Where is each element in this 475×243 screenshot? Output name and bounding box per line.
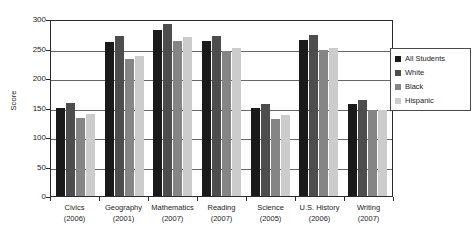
category-tick-mark: [393, 197, 394, 201]
y-axis-tick-label: 250: [20, 46, 46, 54]
x-axis-label-year: (2005): [246, 214, 295, 225]
bar-groups: [51, 21, 392, 196]
bar: [105, 42, 114, 196]
x-axis-label-year: (2007): [344, 214, 393, 225]
legend: All StudentsWhiteBlackHispanic: [390, 48, 471, 111]
bar: [358, 100, 367, 196]
category-tick-mark: [197, 197, 198, 201]
y-axis-tick-label: 200: [20, 75, 46, 83]
y-axis-tick-label: 0: [20, 193, 46, 201]
bar: [56, 108, 65, 197]
bar: [173, 41, 182, 196]
bar-group: [100, 21, 149, 196]
x-axis-label: Science(2005): [246, 203, 295, 225]
bar: [153, 30, 162, 196]
legend-swatch-icon: [395, 98, 401, 104]
bar: [378, 110, 387, 196]
bar-group: [197, 21, 246, 196]
x-axis-label: Reading(2007): [197, 203, 246, 225]
legend-item: White: [395, 68, 466, 77]
x-axis-label: Mathematics(2007): [148, 203, 197, 225]
bar-chart: Score 050100150200250300 Civics(2006)Geo…: [0, 0, 475, 243]
x-axis-label-year: (2001): [99, 214, 148, 225]
bar: [202, 41, 211, 196]
bar: [319, 50, 328, 196]
x-axis-label-name: Writing: [344, 203, 393, 214]
bar-group: [51, 21, 100, 196]
bar: [348, 104, 357, 196]
bar: [76, 118, 85, 196]
x-axis-label: Geography(2001): [99, 203, 148, 225]
bar: [271, 119, 280, 196]
legend-item: Hispanic: [395, 96, 466, 105]
y-axis-title: Score: [9, 71, 18, 131]
bar: [329, 48, 338, 196]
bar: [309, 35, 318, 196]
bar-group: [246, 21, 295, 196]
bar: [261, 104, 270, 196]
bar: [163, 24, 172, 196]
bar: [232, 48, 241, 196]
x-axis-label: U.S. History(2006): [295, 203, 344, 225]
x-axis-label-name: Reading: [197, 203, 246, 214]
x-axis-label: Writing(2007): [344, 203, 393, 225]
bar-group: [148, 21, 197, 196]
x-axis-label-name: U.S. History: [295, 203, 344, 214]
legend-label: All Students: [405, 55, 445, 63]
legend-label: White: [405, 69, 424, 77]
plot-area: [50, 20, 393, 197]
legend-item: Black: [395, 82, 466, 91]
bar: [222, 51, 231, 196]
legend-label: Hispanic: [405, 97, 434, 105]
x-axis-label-name: Mathematics: [148, 203, 197, 214]
legend-item: All Students: [395, 54, 466, 63]
y-axis-tick-label: 150: [20, 105, 46, 113]
category-tick-mark: [295, 197, 296, 201]
x-axis-label-year: (2006): [50, 214, 99, 225]
legend-swatch-icon: [395, 56, 401, 62]
bar: [251, 108, 260, 197]
bar: [183, 37, 192, 196]
bar: [368, 110, 377, 196]
legend-swatch-icon: [395, 84, 401, 90]
bar: [125, 59, 134, 196]
x-axis-label-name: Geography: [99, 203, 148, 214]
bar: [281, 115, 290, 196]
category-tick-mark: [344, 197, 345, 201]
bar: [86, 114, 95, 196]
legend-label: Black: [405, 83, 423, 91]
bar-group: [343, 21, 392, 196]
bar: [135, 56, 144, 196]
x-axis-label-name: Civics: [50, 203, 99, 214]
category-tick-marks: [50, 197, 393, 202]
y-axis-tick-labels: 050100150200250300: [18, 0, 46, 243]
x-axis-label-year: (2006): [295, 214, 344, 225]
y-axis-tick-label: 100: [20, 134, 46, 142]
bar: [66, 103, 75, 196]
y-axis-tick-label: 300: [20, 16, 46, 24]
category-tick-mark: [148, 197, 149, 201]
bar: [115, 36, 124, 196]
x-axis-labels: Civics(2006)Geography(2001)Mathematics(2…: [50, 203, 393, 225]
category-tick-mark: [246, 197, 247, 201]
legend-swatch-icon: [395, 70, 401, 76]
x-axis-label: Civics(2006): [50, 203, 99, 225]
bar-group: [295, 21, 344, 196]
y-axis-tick-label: 50: [20, 164, 46, 172]
bar: [212, 36, 221, 196]
bar: [299, 40, 308, 196]
x-axis-label-name: Science: [246, 203, 295, 214]
x-axis-label-year: (2007): [197, 214, 246, 225]
category-tick-mark: [99, 197, 100, 201]
x-axis-label-year: (2007): [148, 214, 197, 225]
category-tick-mark: [50, 197, 51, 201]
